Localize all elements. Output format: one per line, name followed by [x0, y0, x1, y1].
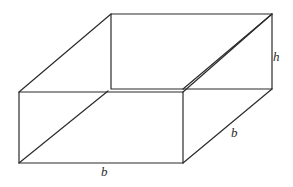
rectangular-prism-drawing — [0, 0, 293, 187]
figure-background — [0, 0, 293, 187]
figure-container: h b b — [0, 0, 293, 187]
height-label: h — [273, 50, 280, 63]
width-label: b — [101, 165, 108, 178]
depth-label: b — [231, 126, 238, 139]
